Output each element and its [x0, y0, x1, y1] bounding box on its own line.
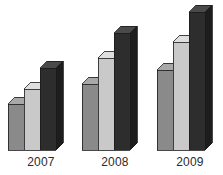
- bar-front-face: [189, 12, 205, 150]
- bar-side-face: [205, 5, 212, 150]
- bar-group-2009: [157, 5, 212, 150]
- bar-front-face: [82, 84, 98, 150]
- bar-2009-series3: [189, 5, 212, 150]
- bar-2008-series3: [114, 26, 137, 150]
- bar-2007-series3: [40, 61, 63, 150]
- bar-front-face: [98, 58, 114, 150]
- x-axis-label-2007: 2007: [1, 155, 81, 169]
- plot-area: [0, 0, 223, 175]
- bar-side-face: [56, 61, 63, 150]
- x-axis-label-2009: 2009: [150, 155, 223, 169]
- bar-group-2007: [8, 61, 63, 150]
- bar-front-face: [173, 42, 189, 150]
- x-axis-label-2008: 2008: [75, 155, 155, 169]
- chart-container: 2007 2008 2009: [0, 0, 223, 175]
- bar-chart-svg: [0, 0, 223, 175]
- bar-front-face: [114, 33, 130, 150]
- bar-front-face: [24, 89, 40, 150]
- bar-front-face: [40, 68, 56, 150]
- bar-group-2008: [82, 26, 137, 150]
- bar-side-face: [130, 26, 137, 150]
- bar-front-face: [8, 104, 24, 150]
- bar-front-face: [157, 70, 173, 150]
